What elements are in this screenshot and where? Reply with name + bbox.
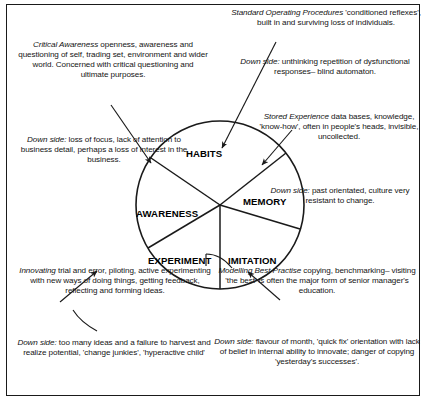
- note-memory-down-side: Down side: past orientated, culture very…: [256, 186, 424, 206]
- note-lead: Down side:: [214, 337, 253, 346]
- note-habits-down-side: Down side: unthinking repetition of dysf…: [226, 57, 424, 77]
- note-body: past orientated, culture very resistant …: [305, 186, 409, 205]
- note-standard-operating-procedures: Standard Operating Procedures 'condition…: [228, 8, 424, 28]
- note-lead: Standard Operating Procedures: [231, 8, 343, 17]
- note-lead: Innovating: [19, 266, 56, 275]
- note-modelling-best-practise: Modelling Best Practise copying, benchma…: [216, 266, 418, 296]
- segment-label-awareness: AWARENESS: [136, 208, 198, 219]
- note-lead: Down side:: [240, 57, 279, 66]
- segment-label-imitation: IMITATION: [228, 255, 277, 266]
- note-lead: Modelling Best Practise: [218, 266, 301, 275]
- note-experiment-down-side: Down side: too many ideas and a failure …: [14, 338, 214, 358]
- note-lead: Down side:: [271, 186, 310, 195]
- note-awareness-down-side: Down side: loss of focus, lack of attent…: [14, 135, 194, 165]
- note-imitation-down-side: Down side: flavour of month, 'quick fix'…: [214, 337, 420, 367]
- diagram-page: HABITS MEMORY IMITATION EXPERIMENT AWARE…: [0, 0, 427, 401]
- note-stored-experience: Stored Experience data bases, knowledge,…: [254, 112, 424, 142]
- note-lead: Stored Experience: [264, 112, 329, 121]
- note-lead: Down side:: [27, 135, 66, 144]
- segment-label-experiment: EXPERIMENT: [148, 255, 211, 266]
- note-lead: Down side:: [17, 338, 56, 347]
- note-lead: Critical Awareness: [33, 40, 98, 49]
- note-body: trial and error, piloting, active experi…: [30, 266, 210, 295]
- note-body: unthinking repetition of dysfunctional r…: [274, 57, 410, 76]
- note-innovating: Innovating trial and error, piloting, ac…: [16, 266, 214, 296]
- note-critical-awareness: Critical Awareness openness, awareness a…: [18, 40, 208, 80]
